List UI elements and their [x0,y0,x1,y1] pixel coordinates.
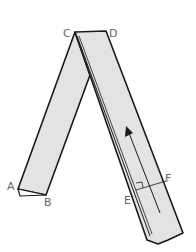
strip-right-leg [75,31,183,244]
strip-left-leg [18,32,90,195]
label-d: D [109,27,117,40]
folded-strip-diagram: C D A B E F [0,0,196,252]
label-f: F [165,172,171,185]
label-c: C [63,27,71,40]
label-a: A [7,180,15,193]
label-e: E [124,194,131,207]
label-b: B [44,196,52,209]
